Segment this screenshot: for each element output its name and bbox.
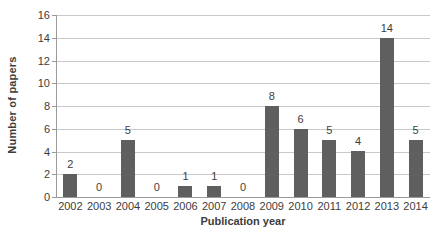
bar	[351, 151, 365, 197]
bar-value-label: 5	[116, 124, 140, 137]
y-tick-label: 0	[26, 191, 50, 203]
x-tick-label: 2007	[199, 200, 229, 212]
y-gridline	[56, 38, 430, 39]
bar-chart-figure: Number of papers 02468101214162200202003…	[0, 0, 444, 236]
y-gridline	[56, 129, 430, 130]
bar	[322, 140, 336, 197]
y-gridline	[56, 174, 430, 175]
bar	[63, 174, 77, 197]
bar-value-label: 1	[202, 170, 226, 183]
x-axis-line	[56, 197, 430, 198]
x-tick-label: 2013	[372, 200, 402, 212]
bar	[178, 186, 192, 197]
x-tick-label: 2003	[84, 200, 114, 212]
x-tick-label: 2008	[228, 200, 258, 212]
x-tick-label: 2004	[113, 200, 143, 212]
y-axis-title: Number of papers	[6, 35, 18, 175]
y-tick-label: 2	[26, 168, 50, 180]
y-tick-label: 14	[26, 32, 50, 44]
bar	[409, 140, 423, 197]
y-gridline	[56, 61, 430, 62]
bar-value-label: 14	[375, 22, 399, 35]
y-tick-label: 12	[26, 55, 50, 67]
bar-value-label: 1	[173, 170, 197, 183]
bar-value-label: 2	[58, 158, 82, 171]
x-tick-label: 2006	[170, 200, 200, 212]
bar-value-label: 5	[404, 124, 428, 137]
y-gridline	[56, 106, 430, 107]
bar	[265, 106, 279, 197]
bar-chart: Number of papers 02468101214162200202003…	[0, 0, 444, 236]
y-gridline	[56, 83, 430, 84]
y-axis-line	[56, 15, 57, 197]
bar-value-label: 0	[87, 181, 111, 194]
x-tick-label: 2011	[314, 200, 344, 212]
x-tick-label: 2010	[286, 200, 316, 212]
x-tick-label: 2012	[343, 200, 373, 212]
x-tick-label: 2014	[401, 200, 431, 212]
bar-value-label: 5	[317, 124, 341, 137]
y-gridline	[56, 152, 430, 153]
bar-value-label: 6	[289, 113, 313, 126]
x-tick-label: 2005	[142, 200, 172, 212]
bar-value-label: 0	[231, 181, 255, 194]
bar-value-label: 0	[145, 181, 169, 194]
y-tick-label: 6	[26, 123, 50, 135]
y-gridline	[56, 15, 430, 16]
y-tick-label: 4	[26, 146, 50, 158]
bar	[121, 140, 135, 197]
x-axis-title: Publication year	[56, 215, 430, 227]
bar	[294, 129, 308, 197]
bar-value-label: 4	[346, 135, 370, 148]
bar	[207, 186, 221, 197]
x-tick-label: 2002	[55, 200, 85, 212]
bar-value-label: 8	[260, 90, 284, 103]
bar	[380, 38, 394, 197]
y-tick-label: 16	[26, 9, 50, 21]
y-tick-label: 10	[26, 77, 50, 89]
y-tick-label: 8	[26, 100, 50, 112]
x-tick-label: 2009	[257, 200, 287, 212]
